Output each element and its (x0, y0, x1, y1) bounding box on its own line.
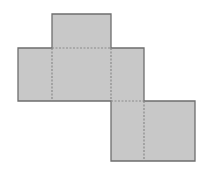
net-canvas (0, 0, 206, 173)
net-outline (18, 14, 195, 161)
cuboid-net-diagram (0, 0, 206, 173)
